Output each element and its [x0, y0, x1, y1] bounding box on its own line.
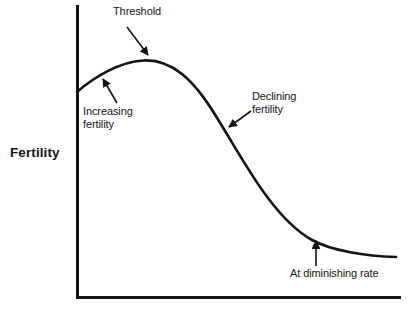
- annotation-increasing-fertility-line1: Increasing: [83, 105, 133, 117]
- declining-fertility-arrow: [229, 111, 251, 127]
- threshold-arrow: [127, 27, 148, 55]
- annotation-threshold: Threshold: [113, 5, 161, 18]
- increasing-fertility-arrow: [103, 79, 117, 103]
- annotation-declining-fertility: Decliningfertility: [252, 90, 296, 116]
- annotation-diminishing-rate: At diminishing rate: [290, 267, 379, 280]
- annotation-increasing-fertility: Increasingfertility: [83, 105, 133, 131]
- annotation-declining-fertility-line1: Declining: [252, 90, 296, 102]
- y-axis-label: Fertility: [10, 146, 60, 159]
- annotation-increasing-fertility-line2: fertility: [83, 118, 114, 130]
- annotation-declining-fertility-line2: fertility: [252, 103, 283, 115]
- fertility-curve-figure: Fertility Threshold Increasingfertility …: [0, 0, 413, 313]
- fertility-curve: [77, 60, 396, 257]
